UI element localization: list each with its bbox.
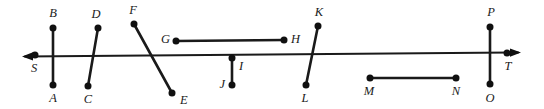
arrowhead-left-icon	[22, 52, 33, 60]
point-dot-m	[367, 75, 374, 82]
point-dot-b	[50, 25, 57, 32]
point-label-j: J	[219, 77, 226, 91]
diagram-canvas: ABCDEFGHIJKLMNOPST	[0, 0, 544, 109]
point-dot-k	[315, 23, 322, 30]
point-label-a: A	[48, 91, 57, 105]
point-label-n: N	[451, 84, 461, 98]
point-dot-i	[229, 55, 236, 62]
main-line-st	[22, 48, 521, 60]
point-label-t: T	[505, 59, 513, 73]
segment-gh	[176, 40, 284, 41]
point-dot-t	[504, 50, 511, 57]
point-dot-h	[281, 37, 288, 44]
geometry-diagram: ABCDEFGHIJKLMNOPST	[0, 0, 544, 109]
point-dot-c	[85, 83, 92, 90]
point-label-i: I	[238, 59, 244, 73]
point-label-f: F	[128, 3, 137, 17]
point-dot-d	[95, 25, 102, 32]
point-dot-n	[453, 75, 460, 82]
line-segments	[53, 24, 490, 93]
point-dot-j	[229, 82, 236, 89]
point-label-s: S	[31, 61, 38, 75]
point-label-g: G	[161, 32, 170, 46]
point-label-l: L	[301, 91, 309, 105]
point-dot-s	[32, 52, 39, 59]
point-label-e: E	[179, 93, 188, 107]
point-label-o: O	[485, 91, 494, 105]
point-dot-f	[131, 21, 138, 28]
main-line-stroke	[25, 53, 518, 57]
point-label-k: K	[314, 5, 324, 19]
point-label-d: D	[90, 7, 100, 21]
point-dots	[32, 21, 511, 97]
point-label-m: M	[363, 84, 375, 98]
arrowhead-right-icon	[510, 48, 521, 56]
point-dot-o	[487, 81, 494, 88]
segment-kl	[306, 26, 318, 85]
point-label-h: H	[290, 32, 301, 46]
point-label-b: B	[49, 6, 57, 20]
point-label-c: C	[84, 92, 93, 106]
point-dot-a	[50, 82, 57, 89]
point-dot-g	[173, 38, 180, 45]
point-label-p: P	[486, 5, 495, 19]
point-dot-e	[169, 90, 176, 97]
point-dot-p	[487, 24, 494, 31]
point-dot-l	[303, 82, 310, 89]
